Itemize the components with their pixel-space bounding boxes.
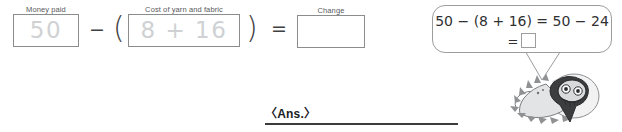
money-paid-value: 50 bbox=[30, 19, 62, 42]
left-paren: ( bbox=[113, 13, 125, 43]
money-paid-label: Money paid bbox=[13, 5, 79, 14]
bubble-equation-line: 50 − (8 + 16) = 50 − 24 bbox=[433, 13, 611, 29]
answer-rule[interactable] bbox=[265, 123, 458, 125]
bubble-equals-sign: = bbox=[508, 34, 519, 49]
change-label: Change bbox=[297, 6, 365, 15]
answer-label: 〈Ans.〉 bbox=[265, 107, 316, 121]
bubble-result-line: = bbox=[433, 33, 611, 49]
worksheet-page: Money paid 50 − ( Cost of yarn and fabri… bbox=[0, 0, 622, 132]
money-paid-box[interactable]: 50 bbox=[13, 14, 79, 47]
answer-area: 〈Ans.〉 bbox=[265, 104, 316, 122]
right-paren: ) bbox=[246, 13, 258, 43]
equals-operator: = bbox=[271, 19, 287, 38]
cost-label: Cost of yarn and fabric bbox=[128, 5, 240, 14]
cost-box[interactable]: 8 + 16 bbox=[128, 14, 240, 47]
change-box[interactable] bbox=[297, 15, 365, 48]
speech-bubble-tail bbox=[520, 48, 566, 82]
bubble-answer-slot[interactable] bbox=[521, 33, 536, 48]
minus-operator: − bbox=[89, 20, 105, 39]
cost-value: 8 + 16 bbox=[141, 19, 228, 42]
speech-bubble: 50 − (8 + 16) = 50 − 24 = bbox=[432, 5, 612, 53]
